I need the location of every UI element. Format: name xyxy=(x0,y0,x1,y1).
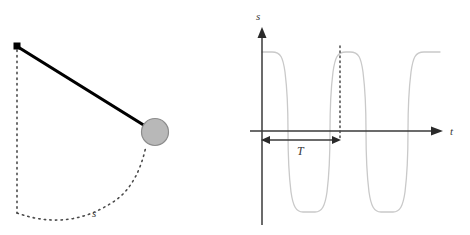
pivot-point xyxy=(14,43,21,50)
arc-length-label: s xyxy=(92,207,96,219)
t-axis-label: t xyxy=(450,125,454,137)
displacement-time-graph: s t T xyxy=(250,10,454,225)
figure-canvas: s s t T xyxy=(0,0,470,235)
pendulum-diagram: s xyxy=(14,43,169,221)
s-axis-label: s xyxy=(256,10,260,22)
figure-svg: s s t T xyxy=(0,0,470,235)
t-axis-arrowhead xyxy=(431,127,443,136)
displacement-waveform xyxy=(262,52,440,212)
period-label: T xyxy=(297,144,305,158)
pendulum-bob xyxy=(142,119,169,146)
pendulum-rod xyxy=(18,47,150,129)
swing-arc-dotted xyxy=(17,146,146,220)
s-axis-arrowhead xyxy=(258,27,267,38)
